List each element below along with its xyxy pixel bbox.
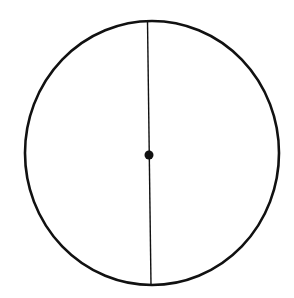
center-point [145, 151, 154, 160]
background [0, 0, 294, 298]
diagram-canvas [0, 0, 294, 298]
